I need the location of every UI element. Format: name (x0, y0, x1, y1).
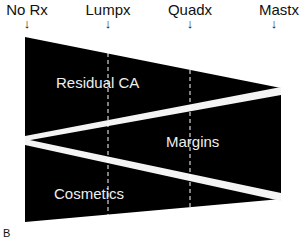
panel-letter: B (3, 227, 10, 239)
region-label-residual-ca: Residual CA (56, 74, 139, 91)
tradeoff-wedge-diagram (0, 0, 308, 247)
region-label-margins: Margins (166, 133, 219, 150)
region-label-cosmetics: Cosmetics (54, 185, 124, 202)
